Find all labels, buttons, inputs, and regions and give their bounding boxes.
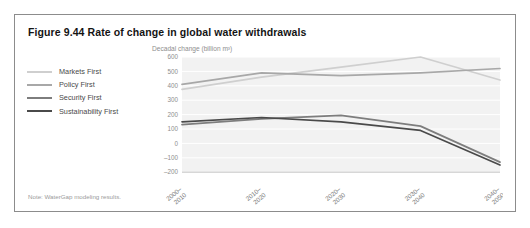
- figure-title: Figure 9.44 Rate of change in global wat…: [28, 26, 306, 38]
- legend-swatch-security-first: [27, 97, 52, 99]
- x-axis-tick-label: 2040–2050: [483, 185, 503, 208]
- figure-panel: Figure 9.44 Rate of change in global wat…: [14, 14, 516, 212]
- y-axis-title: Decadal change (billion m³): [152, 45, 232, 52]
- legend-item-security-first: Security First: [27, 91, 152, 104]
- legend-label-markets-first: Markets First: [59, 67, 101, 76]
- legend-item-policy-first: Policy First: [27, 78, 152, 91]
- legend-swatch-markets-first: [27, 71, 52, 73]
- x-axis-labels-svg: 2000–20102010–20202020–20302030–20402040…: [154, 180, 503, 222]
- y-axis-tick-label: 400: [167, 82, 178, 89]
- y-axis-tick-label: 200: [167, 111, 178, 118]
- y-axis-tick-label: 100: [167, 125, 178, 132]
- x-axis-tick-labels: 2000–20102010–20202020–20302030–20402040…: [165, 185, 503, 208]
- legend-swatch-sustainability-first: [27, 110, 52, 112]
- y-axis-tick-label: 500: [167, 68, 178, 75]
- x-axis-tick-label: 2000–2010: [165, 185, 188, 208]
- y-axis-tick-label: 600: [167, 54, 178, 60]
- legend-item-markets-first: Markets First: [27, 65, 152, 78]
- legend-item-sustainability-first: Sustainability First: [27, 105, 152, 118]
- chart-legend: Markets First Policy First Security Firs…: [27, 65, 152, 118]
- legend-swatch-policy-first: [27, 84, 52, 86]
- x-axis-tick-label: 2020–2030: [324, 185, 347, 208]
- y-axis-tick-label: –100: [164, 154, 179, 161]
- chart-plot-area: 6005004003002001000–100–200 2000–2010201…: [154, 54, 503, 182]
- y-axis-tick-label: 300: [167, 96, 178, 103]
- legend-label-security-first: Security First: [59, 93, 102, 102]
- figure-note: Note: WaterGap modeling results.: [28, 193, 121, 200]
- y-axis-tick-label: –200: [164, 168, 179, 175]
- legend-label-policy-first: Policy First: [59, 80, 95, 89]
- x-axis-tick-label: 2010–2020: [244, 185, 267, 208]
- y-axis-tick-labels: 6005004003002001000–100–200: [164, 54, 179, 175]
- x-axis-tick-label: 2030–2040: [403, 185, 426, 208]
- y-axis-tick-label: 0: [174, 140, 178, 147]
- line-chart-svg: 6005004003002001000–100–200: [154, 54, 503, 182]
- legend-label-sustainability-first: Sustainability First: [59, 107, 118, 116]
